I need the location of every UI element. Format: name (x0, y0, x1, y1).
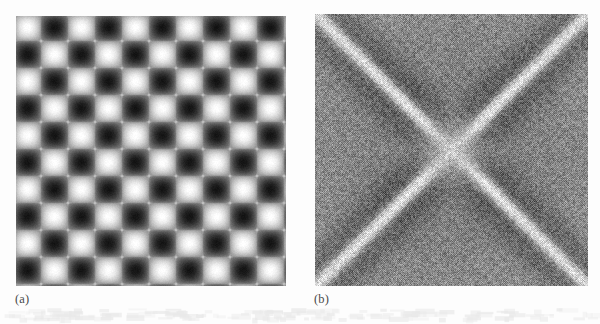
panel-b-canvas (315, 14, 588, 286)
panel-a-label: (a) (15, 292, 29, 307)
figure-container: (a) (b) (0, 0, 600, 324)
panel-a-canvas (16, 16, 286, 286)
panel-b-label: (b) (314, 292, 329, 307)
scan-bleedthrough-canvas (0, 306, 600, 324)
scan-bleedthrough-artifact (0, 306, 600, 324)
panel-b-image (315, 14, 588, 286)
panel-a-image (16, 16, 286, 286)
